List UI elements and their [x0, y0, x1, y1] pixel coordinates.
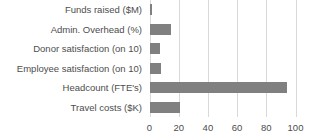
category-label: Employee satisfaction (on 10) — [0, 59, 146, 79]
bar-slot — [150, 98, 296, 118]
category-label: Funds raised ($M) — [0, 0, 146, 20]
bar-admin-overhead[interactable] — [150, 24, 172, 35]
bars-layer — [150, 0, 296, 117]
category-label: Travel costs ($K) — [0, 98, 146, 118]
x-axis-tick-label: 60 — [232, 122, 243, 133]
x-axis-tick-label: 0 — [147, 122, 152, 133]
bar-slot — [150, 0, 296, 20]
x-axis-tick-label: 80 — [261, 122, 272, 133]
bar-slot — [150, 20, 296, 40]
bar-travel-costs[interactable] — [150, 102, 181, 113]
bar-employee-satisfaction[interactable] — [150, 63, 162, 74]
bar-slot — [150, 39, 296, 59]
bar-slot — [150, 59, 296, 79]
category-label: Donor satisfaction (on 10) — [0, 39, 146, 59]
x-axis: 020406080100 — [150, 117, 296, 140]
bar-donor-satisfaction[interactable] — [150, 43, 160, 54]
x-axis-tick-label: 20 — [173, 122, 184, 133]
horizontal-bar-chart: Funds raised ($M) Admin. Overhead (%) Do… — [0, 0, 311, 140]
category-label: Headcount (FTE's) — [0, 78, 146, 98]
plot-area — [150, 0, 296, 117]
x-axis-tick-label: 40 — [203, 122, 214, 133]
gridline — [296, 0, 297, 117]
bar-headcount[interactable] — [150, 82, 288, 93]
category-axis-labels: Funds raised ($M) Admin. Overhead (%) Do… — [0, 0, 146, 117]
bar-slot — [150, 78, 296, 98]
x-axis-tick-label: 100 — [288, 122, 304, 133]
bar-funds-raised[interactable] — [150, 4, 152, 15]
category-label: Admin. Overhead (%) — [0, 20, 146, 40]
